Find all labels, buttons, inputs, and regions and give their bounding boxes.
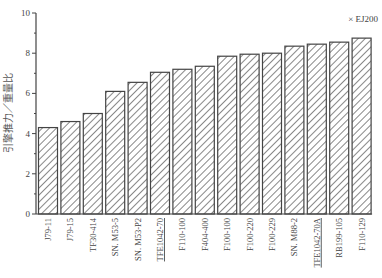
- x-tick-label: J79-15: [65, 218, 75, 241]
- y-axis: 0246810: [21, 8, 36, 219]
- bar: [285, 46, 304, 214]
- x-tick-label: F100-229: [267, 218, 277, 251]
- y-tick-label: 10: [21, 8, 31, 18]
- x-tick-label: SN. M53-P2: [133, 218, 143, 261]
- bar: [106, 91, 125, 214]
- x-tick-label: RB199-105: [334, 218, 344, 258]
- bar: [128, 82, 147, 214]
- x-tick-label: TF30-414: [88, 217, 98, 252]
- x-tick-label: F110-100: [177, 218, 187, 251]
- bar: [330, 42, 349, 214]
- x-tick-label: F404-400: [200, 218, 210, 251]
- bar: [263, 53, 282, 214]
- x-tick-label: TFE1042-70: [155, 218, 165, 261]
- y-axis-title: 引擎推力／重量比: [2, 73, 14, 153]
- x-tick-label: F100-100: [222, 218, 232, 251]
- x-axis-labels: J79-11J79-15TF30-414SN. M53-5SN. M53-P2T…: [43, 217, 367, 267]
- x-tick-label: J79-11: [43, 218, 53, 241]
- bar: [61, 122, 80, 214]
- x-tick-label: F110-129: [357, 218, 367, 251]
- bar: [352, 38, 371, 214]
- bars: [36, 38, 372, 214]
- bar: [195, 66, 214, 214]
- bar: [173, 69, 192, 214]
- y-tick-label: 0: [26, 209, 31, 219]
- bar: [218, 56, 237, 214]
- x-tick-label: SN. M53-5: [110, 218, 120, 256]
- x-tick-label: F100-220: [245, 218, 255, 251]
- bar: [39, 128, 58, 214]
- bar: [151, 72, 170, 214]
- y-tick-label: 8: [26, 48, 31, 58]
- reference-annotation: × EJ200: [348, 14, 378, 24]
- bar: [240, 54, 259, 214]
- bar: [307, 44, 326, 214]
- y-tick-label: 2: [26, 169, 31, 179]
- x-tick-label: SN. M88-2: [289, 218, 299, 256]
- y-tick-label: 4: [26, 129, 31, 139]
- x-tick-label: TFE1042-70A: [312, 217, 322, 267]
- bar: [83, 114, 102, 215]
- y-tick-label: 6: [26, 88, 31, 98]
- bar-chart: 0246810 J79-11J79-15TF30-414SN. M53-5SN.…: [0, 0, 382, 278]
